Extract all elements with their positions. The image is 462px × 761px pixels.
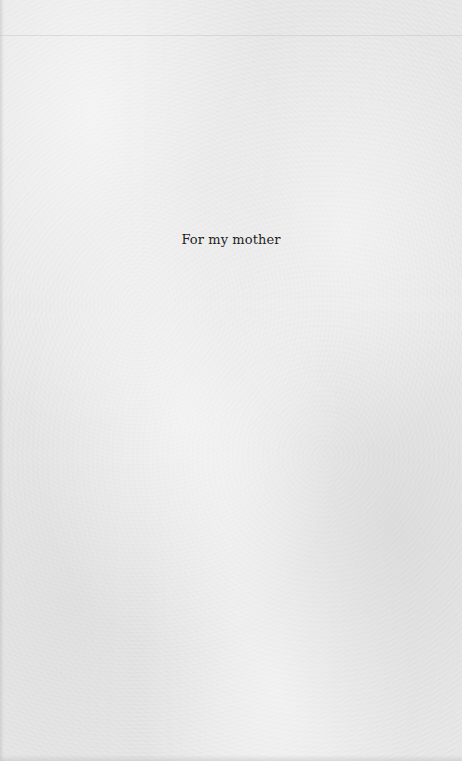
page-left-edge-shadow (0, 0, 4, 761)
page-edge-line (0, 35, 462, 36)
dedication-page: For my mother (0, 0, 462, 761)
page-bottom-edge-shadow (0, 755, 462, 761)
dedication-text: For my mother (0, 232, 462, 248)
